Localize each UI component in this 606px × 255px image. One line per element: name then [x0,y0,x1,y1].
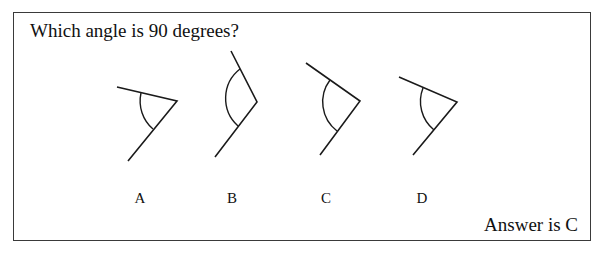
angle-figure-d [399,77,457,155]
angle-arc [140,93,153,129]
angle-arc [226,69,240,126]
angle-arc [420,88,434,130]
angle-arms [215,51,257,157]
option-label-d: D [407,190,437,207]
option-label-a: A [125,190,155,207]
option-label-c: C [311,190,341,207]
angle-arms [117,87,177,161]
answer-text: Answer is C [484,214,578,236]
angle-figure-c [306,63,360,155]
angle-arc [323,80,337,131]
angle-arms [399,77,457,155]
angle-figure-b [215,51,257,157]
angle-arms [306,63,360,155]
option-label-b: B [217,190,247,207]
angle-figure-a [117,87,177,161]
